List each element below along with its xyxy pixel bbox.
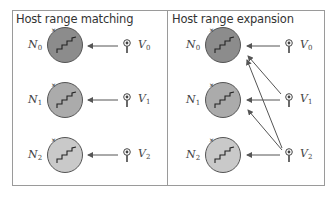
svg-text:×: × bbox=[51, 81, 56, 88]
host-label: N2 bbox=[27, 148, 42, 162]
panel-matching: × N0 × N1 × N2 V0 V1 V2 bbox=[27, 26, 150, 173]
svg-text:×: × bbox=[209, 136, 214, 143]
svg-text:×: × bbox=[209, 26, 214, 33]
svg-text:×: × bbox=[51, 26, 56, 33]
host-cell-n0: × N0 bbox=[27, 26, 83, 63]
virus-label: V2 bbox=[138, 147, 150, 161]
infection-arrow bbox=[247, 60, 282, 148]
host-label: N2 bbox=[185, 148, 200, 162]
virus-label: V1 bbox=[138, 92, 150, 106]
virus-label: V0 bbox=[300, 38, 312, 52]
host-cell-n1: × N1 bbox=[185, 81, 241, 118]
virus-label: V2 bbox=[300, 147, 312, 161]
virus-label: V0 bbox=[138, 38, 150, 52]
phage-icon bbox=[286, 40, 293, 53]
host-cell-n2: × N2 bbox=[27, 136, 83, 173]
host-range-diagram: × N0 × N1 × N2 V0 V1 V2 bbox=[0, 0, 332, 197]
host-label: N1 bbox=[27, 93, 42, 107]
host-cell-n2: × N2 bbox=[185, 136, 241, 173]
phage-icon bbox=[286, 149, 293, 162]
svg-text:×: × bbox=[51, 136, 56, 143]
panel-expansion: × N0 × N1 × N2 V0 V1 V2 bbox=[185, 26, 312, 173]
host-cell-n1: × N1 bbox=[27, 81, 83, 118]
phage-icon bbox=[286, 94, 293, 107]
phage-icon bbox=[124, 149, 131, 162]
infection-arrow bbox=[248, 110, 282, 150]
phage-icon bbox=[124, 94, 131, 107]
host-label: N0 bbox=[185, 38, 200, 52]
svg-text:×: × bbox=[209, 81, 214, 88]
phage-icon bbox=[124, 40, 131, 53]
host-label: N1 bbox=[185, 93, 200, 107]
host-cell-n0: × N0 bbox=[185, 26, 241, 63]
host-label: N0 bbox=[27, 38, 42, 52]
virus-label: V1 bbox=[300, 92, 312, 106]
